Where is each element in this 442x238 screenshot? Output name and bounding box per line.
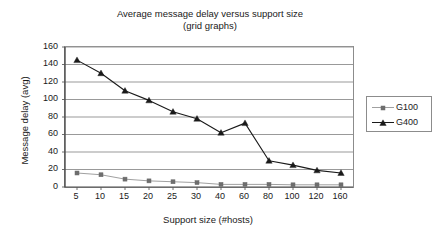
legend-item-G400[interactable]: G400 xyxy=(367,115,431,130)
x-tick-label: 120 xyxy=(308,192,323,201)
legend-marker xyxy=(381,106,385,110)
x-tick-label: 80 xyxy=(263,192,273,201)
x-tick-label: 25 xyxy=(167,192,177,201)
x-tick-label: 40 xyxy=(215,192,225,201)
x-tick-label: 100 xyxy=(284,192,299,201)
square-marker-icon xyxy=(371,102,395,114)
x-tick-label: 20 xyxy=(143,192,153,201)
x-tick-label: 60 xyxy=(239,192,249,201)
legend-symbol-G400 xyxy=(371,117,395,129)
x-tick-label: 30 xyxy=(191,192,201,201)
legend-label-G100: G100 xyxy=(396,103,418,112)
triangle-marker-icon xyxy=(371,117,395,129)
x-tick-label: 5 xyxy=(73,192,78,201)
chart-legend: G100G400 xyxy=(366,96,432,132)
x-axis-title: Support size (#hosts) xyxy=(64,214,352,225)
legend-item-G100[interactable]: G100 xyxy=(367,100,431,115)
legend-symbol-G100 xyxy=(371,102,395,114)
x-tick-label: 15 xyxy=(119,192,129,201)
legend-marker xyxy=(380,119,386,125)
x-tick-label: 160 xyxy=(332,192,347,201)
legend-label-G400: G400 xyxy=(396,118,418,127)
chart-figure: Average message delay versus support siz… xyxy=(0,0,442,238)
x-tick-label: 10 xyxy=(95,192,105,201)
